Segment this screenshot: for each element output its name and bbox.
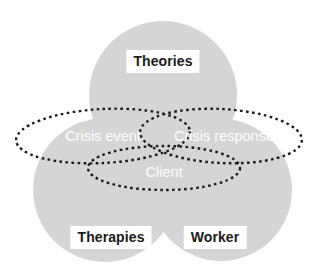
- label-therapies: Therapies: [70, 226, 151, 249]
- label-client: Client: [145, 165, 182, 180]
- label-theories: Theories: [126, 50, 199, 73]
- label-crisis-response: Crisis response: [174, 129, 274, 144]
- venn-diagram: Theories Therapies Worker Crisis event C…: [0, 0, 316, 279]
- label-worker: Worker: [184, 226, 247, 249]
- label-crisis-event: Crisis event: [65, 129, 141, 144]
